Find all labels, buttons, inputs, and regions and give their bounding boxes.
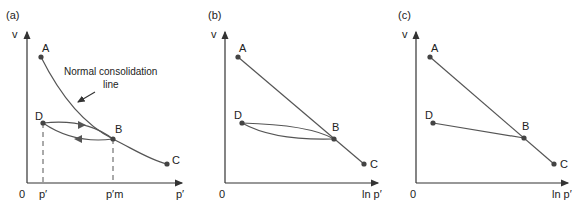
arrow-left-icon — [74, 135, 82, 143]
panel-c: (c) v 0 ln p′ A D B C — [398, 9, 572, 200]
panel-a: (a) v 0 p′ p′m p′ Normal consolidation l… — [6, 9, 184, 200]
x-axis-label-b: ln p′ — [362, 188, 382, 200]
point-label-a: A — [431, 42, 439, 54]
origin-label-c: 0 — [410, 188, 416, 200]
point-d — [430, 120, 435, 125]
point-label-c: C — [560, 158, 568, 170]
point-a — [235, 54, 240, 59]
ncl-annotation-line2: line — [103, 79, 119, 90]
point-c — [164, 161, 169, 166]
point-c — [361, 161, 366, 166]
panel-tag-c: (c) — [398, 9, 411, 21]
point-label-d: D — [234, 109, 242, 121]
point-a — [427, 54, 432, 59]
y-axis-label-b: v — [211, 28, 217, 40]
point-b — [110, 136, 115, 141]
point-a — [38, 54, 43, 59]
annotation-arrow-icon — [78, 92, 95, 102]
point-c — [551, 161, 556, 166]
x-axis-label-c: ln p′ — [552, 188, 572, 200]
point-b — [331, 136, 336, 141]
point-label-d: D — [35, 110, 43, 122]
unload-curve-b — [242, 123, 334, 139]
point-label-c: C — [172, 154, 180, 166]
point-b — [521, 135, 526, 140]
point-label-b: B — [522, 120, 529, 132]
origin-label-b: 0 — [219, 188, 225, 200]
ncl-line-b — [238, 57, 364, 164]
ncl-line-c — [430, 57, 554, 164]
point-label-b: B — [115, 123, 122, 135]
x-tick-p-a: p′ — [39, 188, 47, 200]
unload-reload-line-c — [433, 123, 524, 138]
panel-tag-a: (a) — [6, 9, 19, 21]
y-axis-label-c: v — [402, 28, 408, 40]
point-label-a: A — [42, 42, 50, 54]
origin-label-a: 0 — [19, 188, 25, 200]
point-label-a: A — [239, 42, 247, 54]
panel-tag-b: (b) — [208, 9, 221, 21]
point-d — [239, 120, 244, 125]
point-label-d: D — [425, 109, 433, 121]
y-axis-label-a: v — [12, 28, 18, 40]
point-label-c: C — [370, 158, 378, 170]
point-label-b: B — [332, 121, 339, 133]
arrow-right-icon — [78, 121, 86, 129]
x-axis-label-a: p′ — [176, 188, 184, 200]
consolidation-diagrams: (a) v 0 p′ p′m p′ Normal consolidation l… — [0, 0, 585, 211]
panel-b: (b) v 0 ln p′ A D B C — [208, 9, 382, 200]
x-tick-pm-a: p′m — [106, 188, 123, 200]
ncl-annotation-line1: Normal consolidation — [64, 66, 157, 77]
